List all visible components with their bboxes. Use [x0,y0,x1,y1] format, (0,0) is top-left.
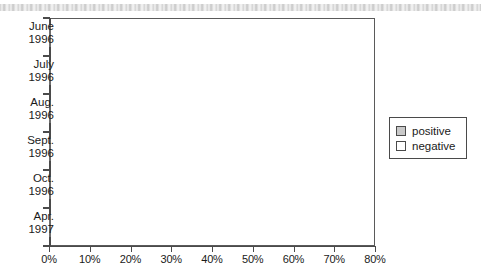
category-label-line1: Sept. [8,134,54,147]
category-label-line2: 1996 [8,71,54,84]
x-axis-tick-label: 70% [314,253,354,265]
category-label-line1: July [8,58,54,71]
x-axis-tick-label: 40% [192,253,232,265]
x-axis-tick [375,247,376,252]
bar-positive-oct-1996 [49,176,314,187]
horizontal-bar-chart: June1996July1996Aug.1996Sept.1996Oct.199… [0,0,481,277]
bar-positive-june-1996 [49,24,249,35]
x-axis-tick-label: 10% [70,253,110,265]
bar-negative-oct-1996 [49,188,190,199]
bar-negative-sept-1996 [49,150,200,161]
legend-swatch-positive-icon [396,126,406,136]
x-axis-tick [90,247,91,252]
x-axis-tick-label: 0% [29,253,69,265]
bar-negative-apr-1997 [49,226,163,237]
legend-item-positive: positive [396,123,460,138]
x-axis-tick-label: 60% [274,253,314,265]
category-label-line1: Apr. [8,210,54,223]
bar-negative-aug-1996 [49,112,204,123]
x-axis-tick-label: 20% [111,253,151,265]
y-axis-tick [43,169,50,171]
category-label-line2: 1996 [8,109,54,122]
category-label-line1: Aug. [8,96,54,109]
y-axis-tick [43,17,50,19]
legend-label-positive: positive [412,125,451,137]
bar-negative-june-1996 [49,36,265,47]
bar-negative-july-1996 [49,74,208,85]
category-label-line2: 1997 [8,223,54,236]
category-label-apr-1997: Apr.1997 [8,210,54,235]
y-axis-tick [43,55,50,57]
y-axis-tick [43,207,50,209]
bar-positive-aug-1996 [49,100,304,111]
x-axis-tick [253,247,254,252]
x-axis-tick [171,247,172,252]
y-axis-tick [43,131,50,133]
x-axis-tick [334,247,335,252]
x-axis-tick [49,247,50,252]
bar-positive-sept-1996 [49,138,308,149]
category-label-line2: 1996 [8,147,54,160]
x-axis-tick [131,247,132,252]
chart-legend: positive negative [389,117,467,159]
legend-label-negative: negative [412,140,455,152]
legend-item-negative: negative [396,138,460,153]
y-axis-tick [43,93,50,95]
x-axis-tick-label: 50% [233,253,273,265]
bar-positive-apr-1997 [49,214,342,225]
legend-swatch-negative-icon [396,141,406,151]
x-axis-tick [294,247,295,252]
category-label-sept-1996: Sept.1996 [8,134,54,159]
x-axis-tick-label: 30% [151,253,191,265]
category-label-line2: 1996 [8,185,54,198]
category-label-oct-1996: Oct.1996 [8,172,54,197]
category-label-aug-1996: Aug.1996 [8,96,54,121]
category-label-line1: Oct. [8,172,54,185]
x-axis-tick-label: 80% [355,253,395,265]
bar-positive-july-1996 [49,62,302,73]
plot-area [49,18,375,246]
category-label-july-1996: July1996 [8,58,54,83]
category-label-june-1996: June1996 [8,20,54,45]
x-axis-tick [212,247,213,252]
category-label-line2: 1996 [8,33,54,46]
category-label-line1: June [8,20,54,33]
